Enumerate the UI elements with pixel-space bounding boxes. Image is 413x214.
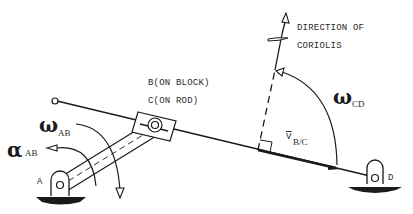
rod-cd <box>52 98 370 176</box>
direction-label-line2: CORIOLIS <box>297 41 342 51</box>
v-bc-symbol: V <box>286 132 292 142</box>
pin-support-a <box>36 171 86 205</box>
pin-support-d <box>348 160 402 193</box>
point-a-label: A <box>37 177 43 187</box>
omega-cd-subscript: CD <box>352 99 365 109</box>
slider-block <box>132 112 176 141</box>
v-bc-subscript: B/C <box>293 137 308 147</box>
point-c-label: C(ON ROD) <box>148 96 198 106</box>
alpha-ab-subscript: AB <box>25 148 38 158</box>
direction-label-line1: DIRECTION OF <box>297 23 364 33</box>
omega-cd-arrow <box>276 68 337 165</box>
alpha-ab-symbol: α <box>7 140 22 160</box>
omega-ab-subscript: AB <box>58 128 71 138</box>
omega-ab-symbol: ω <box>39 115 58 135</box>
point-b-label: B(ON BLOCK) <box>148 78 210 88</box>
point-d-label: D <box>388 173 394 183</box>
omega-ab-arrow <box>76 124 124 198</box>
omega-cd-symbol: ω <box>333 87 352 107</box>
coriolis-direction-arrow <box>258 13 289 152</box>
